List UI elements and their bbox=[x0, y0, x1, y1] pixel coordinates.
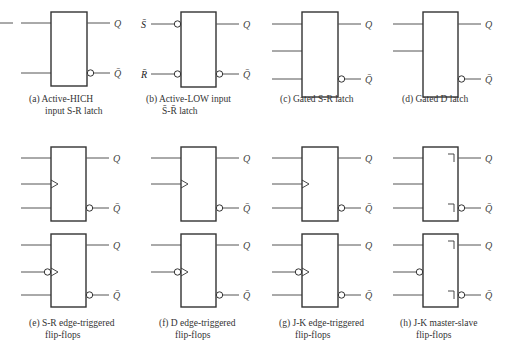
svg-text:flip-flops: flip-flops bbox=[295, 330, 331, 340]
symbol-box bbox=[51, 12, 87, 86]
output-label: Q̄ bbox=[243, 203, 251, 214]
symbol-d: DENQQ̄ bbox=[393, 12, 493, 97]
output-label: Q̄ bbox=[113, 290, 121, 301]
inversion-bubble-icon bbox=[86, 205, 92, 211]
output-label: Q̄ bbox=[485, 203, 493, 214]
symbol-g1: JCKQQ̄ bbox=[272, 147, 373, 221]
symbol-b: S̄SR̄RQQ̄ bbox=[140, 12, 251, 87]
svg-text:S̄-R̄ latch: S̄-R̄ latch bbox=[162, 105, 198, 116]
output-q: Q bbox=[458, 19, 493, 30]
inversion-bubble-icon bbox=[295, 269, 301, 275]
svg-text:(b) Active-LOW input: (b) Active-LOW input bbox=[146, 94, 231, 105]
output-label: Q̄ bbox=[365, 203, 373, 214]
caption-c: (c) Gated S-R latch bbox=[280, 94, 354, 105]
output-q-bar: Q̄ bbox=[87, 68, 122, 79]
svg-text:flip-flops: flip-flops bbox=[416, 330, 452, 340]
output-q-bar: Q̄ bbox=[216, 290, 251, 301]
inversion-bubble-icon bbox=[338, 292, 344, 298]
symbol-box bbox=[423, 234, 458, 307]
output-label: Q̄ bbox=[365, 290, 373, 301]
svg-text:(c) Gated S-R latch: (c) Gated S-R latch bbox=[280, 94, 354, 105]
output-label: Q̄ bbox=[365, 74, 373, 85]
external-label: S̄ bbox=[141, 19, 146, 30]
symbol-a: SRQQ̄ bbox=[21, 12, 122, 86]
inversion-bubble-icon bbox=[338, 205, 344, 211]
output-label: Q bbox=[243, 19, 251, 30]
output-q: Q bbox=[216, 153, 251, 164]
external-label: R̄ bbox=[140, 69, 147, 80]
output-label: Q bbox=[243, 153, 251, 164]
svg-text:(d) Gated D latch: (d) Gated D latch bbox=[402, 94, 468, 105]
svg-text:input S-R latch: input S-R latch bbox=[45, 106, 103, 116]
inversion-bubble-icon bbox=[87, 70, 93, 76]
caption-e: (e) S-R edge-triggeredflip-flops bbox=[29, 318, 115, 340]
output-label: Q bbox=[113, 153, 121, 164]
inversion-bubble-icon bbox=[458, 205, 464, 211]
symbol-box bbox=[302, 234, 338, 307]
output-q: Q bbox=[216, 240, 251, 251]
inversion-bubble-icon bbox=[416, 269, 422, 275]
output-q: Q bbox=[86, 240, 121, 251]
output-label: Q bbox=[114, 18, 122, 29]
output-label: Q bbox=[365, 240, 373, 251]
output-label: Q̄ bbox=[114, 68, 122, 79]
symbol-g2: JCKQQ̄ bbox=[272, 234, 373, 307]
symbol-box bbox=[302, 12, 338, 97]
symbol-box bbox=[181, 12, 216, 87]
output-q: Q bbox=[338, 153, 373, 164]
output-q: Q bbox=[87, 18, 122, 29]
inversion-bubble-icon bbox=[174, 269, 180, 275]
output-q-bar: Q̄ bbox=[458, 74, 493, 85]
flip-flop-symbol-diagram: SRQQ̄S̄SR̄RQQ̄SENRQQ̄DENQQ̄SCRQQ̄SCRQQ̄D… bbox=[0, 0, 513, 360]
symbol-box bbox=[181, 147, 216, 221]
symbol-box bbox=[51, 147, 86, 221]
symbol-f1: DCQQ̄ bbox=[151, 147, 251, 221]
inversion-bubble-icon bbox=[86, 292, 92, 298]
inversion-bubble-icon bbox=[174, 71, 180, 77]
caption-b: (b) Active-LOW inputS̄-R̄ latch bbox=[146, 94, 231, 116]
caption-d: (d) Gated D latch bbox=[402, 94, 468, 105]
symbol-h1: JCKQQ̄ bbox=[393, 147, 493, 221]
symbol-box bbox=[423, 12, 458, 97]
caption-h: (h) J-K master-slaveflip-flops bbox=[400, 318, 477, 340]
svg-text:flip-flops: flip-flops bbox=[45, 330, 81, 340]
symbol-box bbox=[423, 147, 458, 221]
output-label: Q bbox=[365, 19, 373, 30]
output-label: Q bbox=[485, 240, 493, 251]
output-label: Q bbox=[485, 19, 493, 30]
inversion-bubble-icon bbox=[458, 76, 464, 82]
output-label: Q bbox=[243, 240, 251, 251]
symbol-h2: JCKQQ̄ bbox=[393, 234, 493, 307]
inversion-bubble-icon bbox=[216, 205, 222, 211]
output-q: Q bbox=[216, 19, 251, 30]
svg-text:(g) J-K edge-triggered: (g) J-K edge-triggered bbox=[279, 318, 364, 329]
output-q: Q bbox=[86, 153, 121, 164]
svg-text:flip-flops: flip-flops bbox=[175, 330, 211, 340]
symbol-c: SENRQQ̄ bbox=[272, 12, 373, 97]
output-q-bar: Q̄ bbox=[86, 203, 121, 214]
inversion-bubble-icon bbox=[174, 21, 180, 27]
inversion-bubble-icon bbox=[216, 292, 222, 298]
svg-text:(e) S-R edge-triggered: (e) S-R edge-triggered bbox=[29, 318, 115, 329]
output-q-bar: Q̄ bbox=[216, 203, 251, 214]
inversion-bubble-icon bbox=[458, 292, 464, 298]
output-label: Q̄ bbox=[485, 74, 493, 85]
output-label: Q̄ bbox=[113, 203, 121, 214]
output-label: Q̄ bbox=[485, 290, 493, 301]
caption-g: (g) J-K edge-triggeredflip-flops bbox=[279, 318, 364, 340]
svg-text:(a) Active-HICH: (a) Active-HICH bbox=[29, 94, 93, 105]
symbol-e2: SCRQQ̄ bbox=[21, 234, 121, 307]
output-q-bar: Q̄ bbox=[338, 203, 373, 214]
output-q-bar: Q̄ bbox=[338, 74, 373, 85]
output-q-bar: Q̄ bbox=[86, 290, 121, 301]
output-q-bar: Q̄ bbox=[338, 290, 373, 301]
symbol-box bbox=[302, 147, 338, 221]
output-label: Q̄ bbox=[243, 290, 251, 301]
symbol-f2: DCQQ̄ bbox=[151, 234, 251, 307]
output-label: Q bbox=[485, 153, 493, 164]
svg-text:(f) D edge-triggered: (f) D edge-triggered bbox=[159, 318, 236, 329]
caption-f: (f) D edge-triggeredflip-flops bbox=[159, 318, 236, 340]
output-q: Q bbox=[338, 240, 373, 251]
output-label: Q bbox=[365, 153, 373, 164]
output-q: Q bbox=[338, 19, 373, 30]
